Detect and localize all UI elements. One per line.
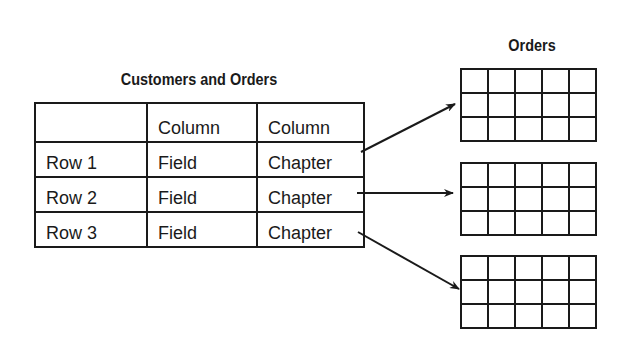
- arrow-row-1: [361, 104, 455, 152]
- arrow-row-3: [358, 232, 459, 289]
- link-arrows: [0, 0, 630, 355]
